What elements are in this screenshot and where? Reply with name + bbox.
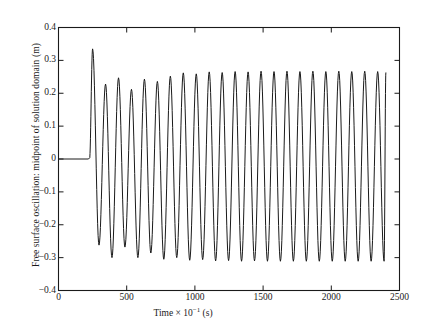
plot-area: [0, 0, 429, 336]
data-line-free-surface: [59, 49, 386, 261]
chart-figure: Free surface oscillation: midpoint of so…: [0, 0, 429, 336]
